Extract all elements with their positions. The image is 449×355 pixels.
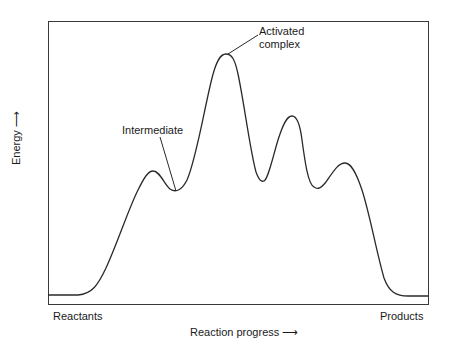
energy-profile-curve bbox=[48, 54, 429, 296]
products-label: Products bbox=[380, 310, 423, 323]
reactants-label: Reactants bbox=[53, 310, 103, 323]
activated-complex-pointer-line bbox=[228, 35, 258, 54]
activated-complex-label-line1: Activated bbox=[259, 25, 304, 38]
energy-curve-plot bbox=[0, 0, 449, 355]
activated-complex-label-line2: complex bbox=[259, 38, 300, 51]
y-axis-label: Energy ⟶ bbox=[10, 111, 23, 165]
x-axis-label: Reaction progress ⟶ bbox=[190, 326, 298, 339]
intermediate-label: Intermediate bbox=[122, 124, 183, 137]
intermediate-pointer-line bbox=[160, 137, 176, 191]
